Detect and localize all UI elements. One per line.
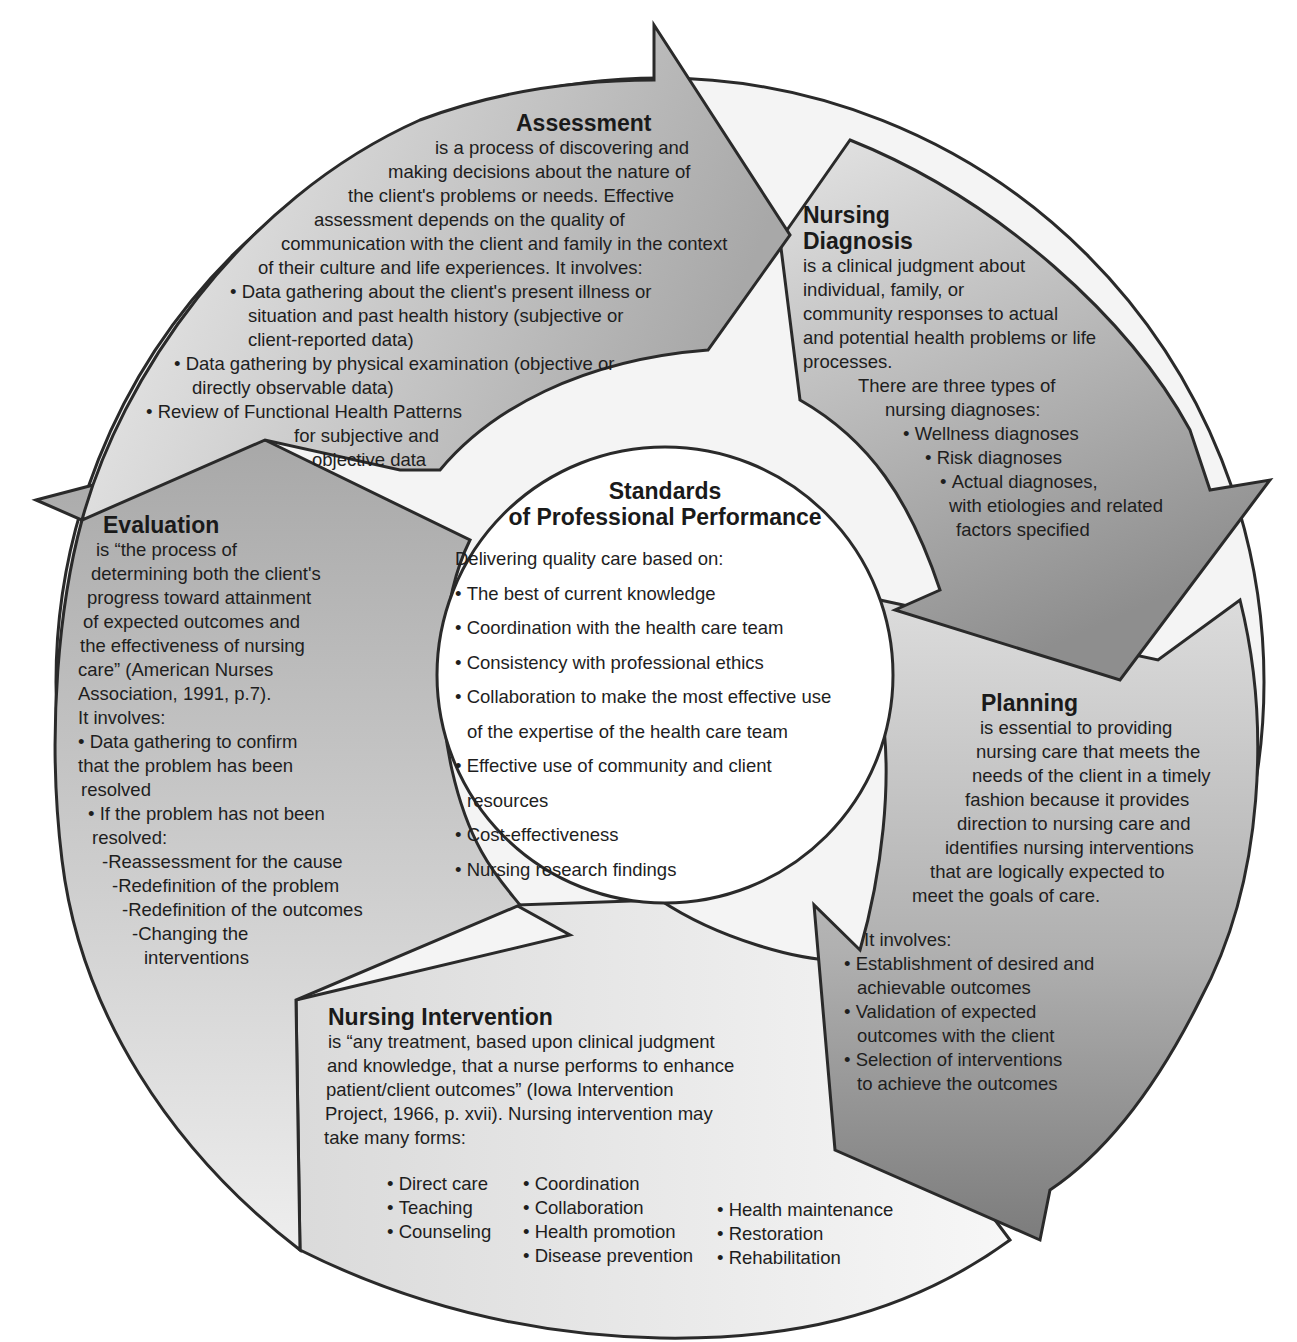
intervention-forms-col1: Direct care Teaching Counseling (387, 1172, 491, 1244)
center-block: Standards of Professional Performance De… (455, 478, 885, 887)
center-title-1: Standards (455, 478, 875, 504)
planning-block: Planning is essential to providing nursi… (840, 690, 1211, 1096)
assessment-block: Assessment is a process of discovering a… (228, 110, 788, 472)
center-title-2: of Professional Performance (455, 504, 875, 530)
evaluation-block: Evaluation is “the process of determinin… (78, 512, 363, 970)
intervention-forms-col3: Health maintenance Restoration Rehabilit… (717, 1198, 893, 1270)
intervention-block: Nursing Intervention is “any treatment, … (316, 1004, 734, 1150)
diagnosis-title-2: Diagnosis (803, 228, 1163, 254)
planning-title: Planning (981, 690, 1211, 716)
diagnosis-title-1: Nursing (803, 202, 1163, 228)
assessment-title: Assessment (516, 110, 788, 136)
intervention-title: Nursing Intervention (328, 1004, 734, 1030)
intervention-forms-col2: Coordination Collaboration Health promot… (523, 1172, 693, 1268)
evaluation-title: Evaluation (103, 512, 363, 538)
